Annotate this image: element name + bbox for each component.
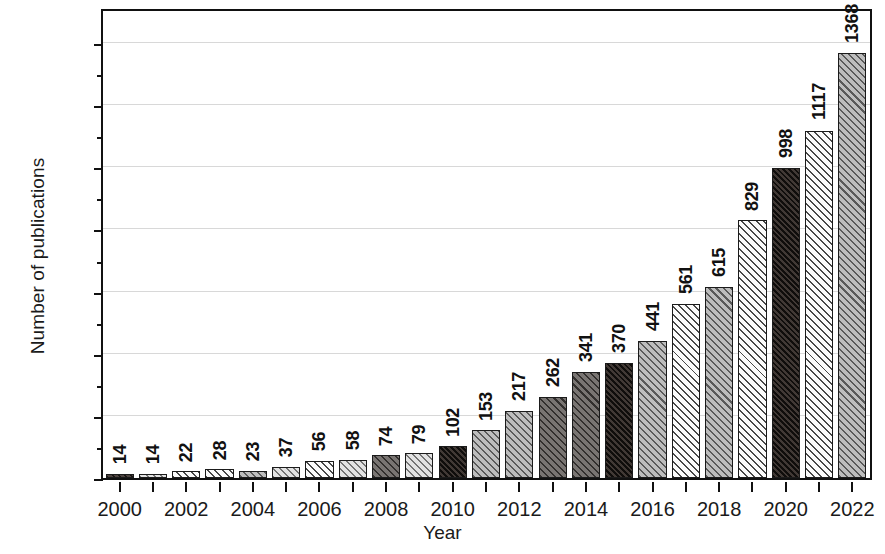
x-axis-tick <box>785 482 787 492</box>
bar-value-label: 1117 <box>809 83 830 120</box>
x-axis-tick-label: 2008 <box>364 498 409 521</box>
x-axis-tick <box>485 482 487 492</box>
bar-2018: 615 <box>705 287 733 478</box>
x-axis-tick <box>818 482 820 492</box>
x-axis-tick-label: 2020 <box>763 498 808 521</box>
bar-value-label: 441 <box>642 302 663 331</box>
y-axis-minor-tick <box>97 386 103 388</box>
x-axis-tick <box>851 482 853 492</box>
x-axis-tick-label: 2002 <box>164 498 209 521</box>
bar-value-label: 370 <box>609 324 630 353</box>
x-axis-tick <box>452 482 454 492</box>
bar-2015: 370 <box>605 363 633 478</box>
y-axis-minor-tick <box>97 448 103 450</box>
x-axis-tick-label: 2016 <box>630 498 675 521</box>
bar-value-label: 74 <box>376 426 397 445</box>
x-axis-tick <box>185 482 187 492</box>
x-axis-tick <box>618 482 620 492</box>
y-axis-tick <box>94 168 103 170</box>
bar-value-label: 28 <box>209 441 230 460</box>
y-axis-minor-tick <box>97 137 103 139</box>
y-axis-tick <box>94 106 103 108</box>
gridline <box>103 104 870 105</box>
bar-value-label: 262 <box>542 358 563 387</box>
x-axis-tick <box>418 482 420 492</box>
bar-value-label: 217 <box>509 372 530 401</box>
bar-value-label: 561 <box>675 265 696 294</box>
x-axis-tick <box>751 482 753 492</box>
y-axis-tick <box>94 293 103 295</box>
bar-2014: 341 <box>572 372 600 478</box>
y-axis-minor-tick <box>97 262 103 264</box>
x-axis-tick-label: 2014 <box>564 498 609 521</box>
y-axis-tick <box>94 44 103 46</box>
x-axis-tick <box>252 482 254 492</box>
bar-value-label: 56 <box>309 432 330 451</box>
x-axis-tick-label: 2006 <box>297 498 342 521</box>
bar-value-label: 341 <box>575 333 596 362</box>
plot-area: 1414222823375658747910215321726234137044… <box>101 9 872 480</box>
bar-value-label: 37 <box>276 438 297 457</box>
bar-2004: 23 <box>239 471 267 478</box>
x-axis-tick <box>352 482 354 492</box>
x-axis-tick <box>552 482 554 492</box>
bar-2003: 28 <box>205 469 233 478</box>
bar-2020: 998 <box>772 168 800 478</box>
x-axis-title: Year <box>0 522 885 544</box>
bar-2000: 14 <box>106 474 134 478</box>
x-axis-tick <box>718 482 720 492</box>
bar-value-label: 23 <box>242 442 263 461</box>
x-axis-tick-label: 2018 <box>697 498 742 521</box>
bar-value-label: 14 <box>109 445 130 464</box>
bar-value-label: 22 <box>176 442 197 461</box>
bar-value-label: 1368 <box>842 4 863 43</box>
y-axis-minor-tick <box>97 75 103 77</box>
y-axis-tick <box>94 230 103 232</box>
x-axis-tick-label: 2012 <box>497 498 542 521</box>
y-axis-tick <box>94 479 103 481</box>
y-axis-title: Number of publications <box>27 96 49 416</box>
y-axis-minor-tick <box>97 324 103 326</box>
bar-2016: 441 <box>638 341 666 478</box>
bar-value-label: 102 <box>442 407 463 436</box>
y-axis-tick <box>94 417 103 419</box>
x-axis-tick <box>219 482 221 492</box>
x-axis-tick <box>518 482 520 492</box>
bar-2012: 217 <box>505 411 533 478</box>
bar-value-label: 153 <box>475 392 496 421</box>
bar-2019: 829 <box>738 220 766 478</box>
x-axis-tick <box>385 482 387 492</box>
bar-2011: 153 <box>472 430 500 478</box>
x-axis-tick <box>318 482 320 492</box>
x-axis-tick-label: 2000 <box>97 498 142 521</box>
bar-2017: 561 <box>672 304 700 478</box>
bar-2001: 14 <box>139 474 167 478</box>
bar-value-label: 615 <box>709 248 730 277</box>
y-axis-tick <box>94 355 103 357</box>
bar-2006: 56 <box>305 461 333 478</box>
x-axis-tick <box>119 482 121 492</box>
bar-value-label: 79 <box>409 425 430 444</box>
bar-2008: 74 <box>372 455 400 478</box>
gridline <box>103 42 870 43</box>
x-axis-tick-label: 2004 <box>231 498 276 521</box>
bar-2022: 1368 <box>838 53 866 478</box>
y-axis-minor-tick <box>97 199 103 201</box>
x-axis-tick-label: 2010 <box>430 498 475 521</box>
x-axis-tick <box>585 482 587 492</box>
x-axis-tick <box>685 482 687 492</box>
x-axis-tick-label: 2022 <box>830 498 875 521</box>
bar-2009: 79 <box>405 453 433 478</box>
bar-2005: 37 <box>272 467 300 478</box>
bar-2013: 262 <box>539 397 567 478</box>
publications-bar-chart: Number of publications Year 141422282337… <box>0 0 885 554</box>
bar-2007: 58 <box>339 460 367 478</box>
bar-2002: 22 <box>172 471 200 478</box>
bar-value-label: 14 <box>142 445 163 464</box>
bar-value-label: 829 <box>742 182 763 211</box>
x-axis-tick <box>285 482 287 492</box>
bar-value-label: 58 <box>342 431 363 450</box>
bar-2010: 102 <box>439 446 467 478</box>
x-axis-tick <box>652 482 654 492</box>
bar-value-label: 998 <box>775 129 796 158</box>
